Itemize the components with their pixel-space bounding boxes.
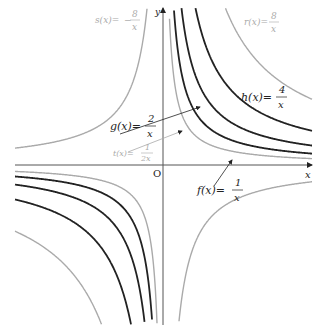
curve-t-left (15, 171, 157, 323)
svg-text:2x: 2x (140, 154, 151, 163)
curve-r-left (15, 231, 102, 324)
svg-text:g(x)=: g(x)= (110, 120, 141, 133)
hyperbola-diagram: y x O s(x)= − 8 x r(x)= 8 x h(x)= 4 x g(… (0, 0, 318, 327)
label-t: t(x)= 1 2x (113, 143, 153, 163)
label-g: g(x)= 2 x (110, 113, 156, 139)
curve-r-right (226, 8, 313, 99)
svg-text:1: 1 (145, 143, 150, 152)
label-f: f(x)= 1 x (196, 177, 243, 203)
svg-text:8: 8 (132, 9, 138, 19)
svg-text:r(x)=: r(x)= (244, 17, 268, 27)
svg-text:h(x)=: h(x)= (241, 91, 272, 104)
origin-label: O (153, 168, 161, 179)
svg-text:x: x (234, 192, 240, 203)
x-axis-label: x (305, 169, 311, 180)
svg-text:8: 8 (271, 11, 277, 21)
svg-text:x: x (271, 24, 276, 34)
svg-text:x: x (278, 99, 284, 110)
svg-text:x: x (132, 22, 137, 32)
svg-text:f(x)=: f(x)= (196, 184, 225, 197)
svg-text:4: 4 (278, 84, 285, 95)
f-pointer (214, 160, 232, 186)
svg-text:1: 1 (235, 177, 241, 188)
svg-text:x: x (147, 128, 153, 139)
curve-s-right (179, 182, 312, 321)
svg-text:t(x)=: t(x)= (113, 149, 134, 158)
label-r: r(x)= 8 x (244, 11, 279, 34)
curve-f-left (15, 177, 152, 320)
label-s: s(x)= − 8 x (95, 9, 140, 32)
curve-f-right (174, 11, 312, 154)
curve-h-left (15, 200, 131, 325)
svg-text:2: 2 (147, 113, 154, 124)
y-axis-label: y (154, 7, 161, 17)
t-pointer (128, 131, 182, 152)
svg-text:s(x)=: s(x)= (95, 15, 119, 25)
label-h: h(x)= 4 x (241, 84, 287, 110)
